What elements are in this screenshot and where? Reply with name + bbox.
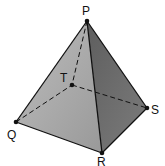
vertex-p bbox=[85, 19, 90, 24]
label-r: R bbox=[97, 155, 106, 166]
pyramid-diagram: P T S Q R bbox=[0, 0, 165, 166]
label-t: T bbox=[60, 71, 68, 85]
label-s: S bbox=[151, 103, 159, 117]
vertex-t bbox=[70, 83, 75, 88]
vertex-s bbox=[145, 106, 150, 111]
label-p: P bbox=[82, 4, 90, 18]
vertex-q bbox=[14, 120, 19, 125]
label-q: Q bbox=[7, 128, 16, 142]
